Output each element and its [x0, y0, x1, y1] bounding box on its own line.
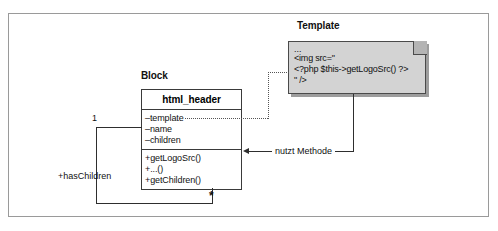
note-folded-corner-icon — [413, 41, 427, 55]
diagram-canvas: Block Template ... <img src=" <?php $thi… — [0, 0, 498, 231]
note-line-1: ... — [294, 45, 421, 53]
operation-get-logo-src: +getLogoSrc() — [145, 153, 241, 164]
has-children-top-horizontal — [96, 127, 142, 128]
template-note-link-horizontal — [185, 118, 268, 119]
template-heading: Template — [297, 21, 339, 31]
note-line-3: <?php $this->getLogoSrc() ?> — [294, 64, 421, 75]
class-attributes: –template –name –children — [142, 110, 241, 149]
has-children-label: +hasChildren — [58, 172, 111, 181]
has-children-left-vertical — [96, 127, 97, 203]
attribute-children: –children — [145, 135, 241, 146]
class-name: html_header — [142, 90, 241, 109]
uses-method-vertical — [353, 94, 354, 151]
uses-method-label: nutzt Methode — [272, 147, 335, 156]
multiplicity-many: * — [209, 190, 214, 202]
template-note-link-vertical — [268, 72, 269, 119]
block-heading: Block — [141, 71, 168, 81]
class-operations: +getLogoSrc() +...() +getChildren() — [142, 150, 241, 189]
operation-ellipsis: +...() — [145, 164, 241, 175]
note-line-4: " /> — [294, 75, 421, 86]
has-children-bottom-horizontal — [96, 203, 212, 204]
uses-method-arrowhead-icon — [243, 148, 249, 154]
class-html-header: html_header –template –name –children +g… — [141, 89, 242, 190]
template-note-link-to-note — [268, 72, 289, 73]
note-line-2: <img src=" — [294, 53, 421, 64]
attribute-name: –name — [145, 124, 241, 135]
note-body: ... <img src=" <?php $this->getLogoSrc()… — [294, 45, 421, 86]
multiplicity-one: 1 — [92, 114, 97, 123]
operation-get-children: +getChildren() — [145, 175, 241, 186]
template-note: ... <img src=" <?php $this->getLogoSrc()… — [288, 41, 426, 94]
